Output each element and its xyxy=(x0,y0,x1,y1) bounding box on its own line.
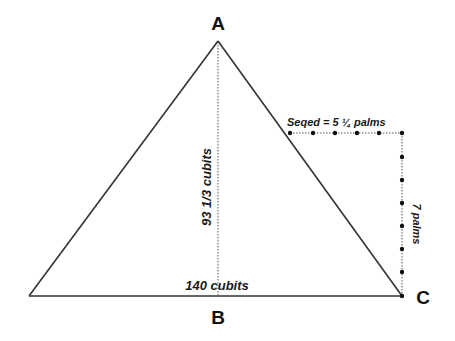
vertex-label-c: C xyxy=(416,287,430,308)
left-edge xyxy=(29,41,218,296)
rise-label: 7 palms xyxy=(411,204,423,245)
triangle xyxy=(29,41,402,296)
right-edge xyxy=(218,41,402,296)
vertex-label-a: A xyxy=(211,13,225,34)
seqed-construction xyxy=(288,131,404,298)
palm-markers xyxy=(288,131,404,298)
vertex-label-b: B xyxy=(211,307,225,328)
seqed-label: Seqed = 5 ¼ palms xyxy=(287,116,386,128)
height-label: 93 1/3 cubits xyxy=(199,148,214,226)
pyramid-diagram: A B C 93 1/3 cubits 140 cubits Seqed = 5… xyxy=(0,0,455,341)
base-label: 140 cubits xyxy=(185,278,249,293)
